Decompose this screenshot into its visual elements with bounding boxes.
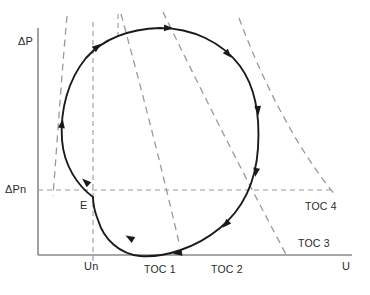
figure-canvas bbox=[0, 0, 370, 295]
y-axis-label: ΔP bbox=[18, 36, 33, 47]
x-tick-label-un: Un bbox=[84, 261, 98, 272]
guide-lines-group bbox=[38, 14, 334, 262]
loop-arrow-bottom-left-rise bbox=[124, 232, 135, 242]
loop-arrow-top-right bbox=[164, 24, 173, 31]
hysteresis-figure: ΔP ΔPn E Un TOC 1 TOC 2 TOC 3 TOC 4 U bbox=[0, 0, 370, 295]
toc-4-label: TOC 4 bbox=[305, 201, 337, 212]
toc-4-line bbox=[239, 18, 336, 196]
x-axis-label: U bbox=[342, 261, 350, 272]
loop-arrowheads bbox=[58, 24, 262, 257]
axes-group bbox=[38, 28, 352, 255]
loop-arrow-right-down bbox=[254, 106, 262, 116]
toc-2-label: TOC 2 bbox=[211, 264, 243, 275]
y-tick-label-delta-pn: ΔPn bbox=[5, 184, 26, 195]
point-label-e: E bbox=[80, 200, 88, 211]
toc-1-label: TOC 1 bbox=[144, 264, 176, 275]
toc-3-label: TOC 3 bbox=[298, 238, 330, 249]
toc-2-line bbox=[121, 14, 180, 247]
hysteresis-loop-group bbox=[58, 24, 262, 257]
loop-arrow-lower-right bbox=[220, 219, 231, 230]
